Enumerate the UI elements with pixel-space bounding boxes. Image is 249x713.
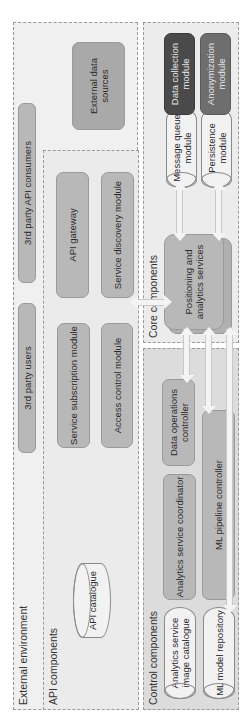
arrowhead-right-icon bbox=[223, 327, 237, 335]
service-subscription-module-box: Service subscription module bbox=[57, 323, 90, 448]
architecture-diagram: External environment 3rd party users 3rd… bbox=[0, 0, 249, 713]
anonymization-module-label: Anonymization module bbox=[205, 34, 227, 114]
control-components-label: Control components bbox=[147, 611, 159, 705]
analytics-service-image-catalogue-cylinder: Analytics service image catalogue bbox=[164, 607, 196, 699]
positioning-and-analytics-services-label: Positioning and analytics services bbox=[183, 235, 205, 329]
arrowhead-up-icon bbox=[130, 295, 138, 309]
api-catalogue-label: API catalogue bbox=[87, 571, 98, 630]
arrowhead-right-icon bbox=[180, 327, 194, 335]
core-components-label: Core components bbox=[147, 255, 159, 338]
data-collection-module-box: Data collection module bbox=[164, 33, 195, 115]
arrow-positioning-ml-model-repository bbox=[226, 329, 233, 609]
data-operations-controller-label: Data operations controller bbox=[168, 380, 190, 465]
api-components-label: API components bbox=[47, 628, 59, 705]
persistence-module-cylinder: Persistence module bbox=[201, 108, 232, 188]
arrow-positioning-ml-pipeline bbox=[205, 330, 212, 410]
anonymization-module-box: Anonymization module bbox=[200, 33, 231, 115]
third-party-users-box: 3rd party users bbox=[18, 303, 36, 453]
data-collection-module-label: Data collection module bbox=[169, 34, 191, 114]
arrowhead-left-icon bbox=[173, 233, 187, 241]
arrow-service-discovery-positioning bbox=[137, 299, 165, 306]
analytics-service-coordinator-label: Analytics service coordinator bbox=[174, 477, 185, 598]
service-subscription-module-label: Service subscription module bbox=[68, 326, 79, 445]
api-catalogue-cylinder: API catalogue bbox=[73, 563, 111, 638]
access-control-module-box: Access control module bbox=[101, 323, 133, 448]
arrowhead-right-icon bbox=[212, 182, 226, 190]
service-discovery-module-label: Service discovery module bbox=[112, 181, 123, 289]
arrowhead-right-icon bbox=[202, 327, 216, 335]
arrow-positioning-persistence bbox=[215, 188, 222, 234]
analytics-service-image-catalogue-label: Analytics service image catalogue bbox=[169, 608, 191, 698]
api-gateway-box: API gateway bbox=[56, 172, 89, 298]
api-gateway-label: API gateway bbox=[67, 208, 78, 261]
arrow-positioning-message-queue bbox=[176, 188, 183, 234]
data-operations-controller-box: Data operations controller bbox=[162, 379, 195, 466]
arrowhead-right-icon bbox=[173, 182, 187, 190]
external-data-sources-box: External data sources bbox=[72, 42, 125, 130]
access-control-module-label: Access control module bbox=[112, 338, 123, 434]
external-data-sources-label: External data sources bbox=[88, 43, 110, 129]
arrowhead-left-icon bbox=[212, 233, 226, 241]
arrowhead-left-icon bbox=[202, 406, 216, 414]
service-discovery-module-box: Service discovery module bbox=[101, 172, 134, 298]
third-party-api-consumers-box: 3rd party API consumers bbox=[18, 103, 36, 283]
ml-model-repository-cylinder: ML model repository bbox=[203, 607, 235, 699]
message-queue-module-cylinder: Message queue module bbox=[166, 108, 197, 188]
message-queue-module-label: Message queue module bbox=[171, 109, 193, 187]
ml-pipeline-controller-label: ML pipeline controller bbox=[213, 460, 224, 550]
third-party-api-consumers-label: 3rd party API consumers bbox=[22, 141, 33, 245]
arrow-positioning-data-operations bbox=[183, 329, 190, 379]
analytics-service-coordinator-box: Analytics service coordinator bbox=[163, 474, 196, 600]
ml-model-repository-label: ML model repository bbox=[214, 610, 225, 696]
positioning-and-analytics-services-box: Positioning and analytics services bbox=[164, 234, 224, 330]
arrowhead-left-icon bbox=[223, 605, 237, 613]
external-environment-label: External environment bbox=[17, 606, 29, 705]
arrowhead-down-icon bbox=[164, 295, 172, 309]
persistence-module-label: Persistence module bbox=[206, 109, 228, 187]
arrowhead-left-icon bbox=[180, 375, 194, 383]
third-party-users-label: 3rd party users bbox=[22, 346, 33, 409]
